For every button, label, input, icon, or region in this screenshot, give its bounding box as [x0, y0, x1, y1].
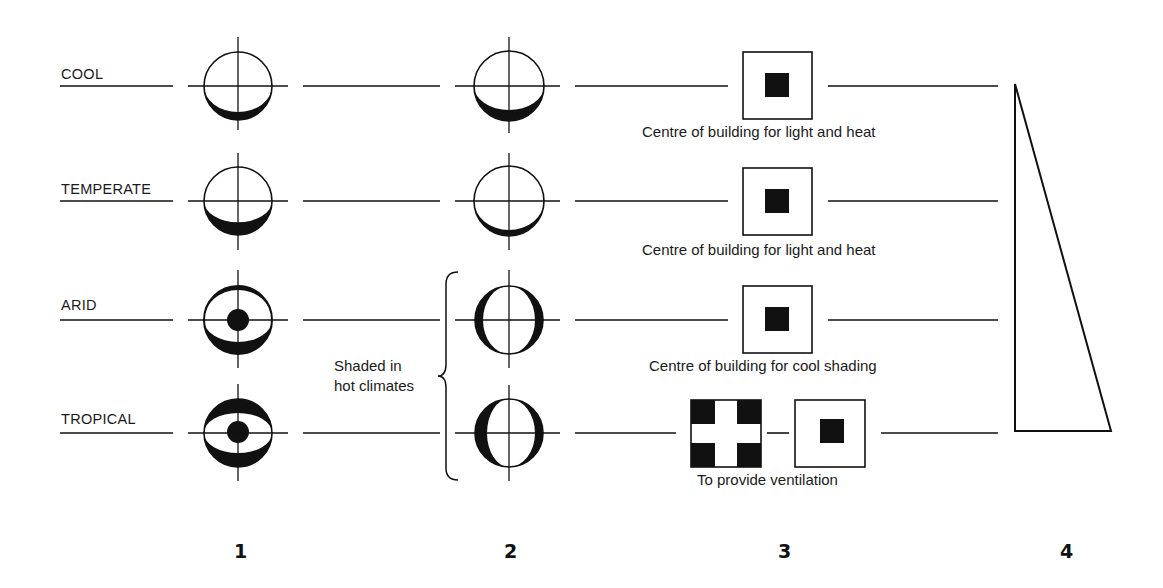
building-plan-centre-core-icon [743, 52, 812, 119]
brace-icon [438, 272, 458, 480]
row-label-tropical: TROPICAL [61, 411, 136, 427]
brace-note-line1: Shaded in [334, 356, 414, 376]
caption-arid: Centre of building for cool shading [649, 357, 877, 374]
orientation-circle-bottom-crescent-thin-icon [455, 153, 560, 250]
row-label-arid: ARID [61, 297, 97, 313]
sun-path-circle-dot-thick-crescents-icon [188, 384, 288, 481]
tapering-triangle-icon [1015, 84, 1111, 431]
brace-note-line2: hot climates [334, 376, 414, 396]
building-plan-cross-icon [691, 400, 761, 467]
caption-temperate: Centre of building for light and heat [642, 241, 876, 258]
row-label-temperate: TEMPERATE [61, 181, 151, 197]
climate-diagram [0, 0, 1163, 588]
building-plan-centre-core-icon [743, 168, 812, 235]
orientation-circle-bottom-crescent-icon [455, 37, 560, 133]
brace-note: Shaded in hot climates [334, 356, 414, 396]
column-number-3: 3 [778, 540, 791, 562]
sun-path-circle-dot-crescents-icon [188, 270, 288, 368]
column-number-1: 1 [234, 540, 247, 562]
row-label-cool: COOL [61, 66, 103, 82]
column-number-4: 4 [1060, 540, 1073, 562]
caption-tropical: To provide ventilation [697, 471, 838, 488]
caption-cool: Centre of building for light and heat [642, 123, 876, 140]
orientation-circle-side-shading-thick-icon [455, 385, 560, 481]
building-plan-centre-core-icon [795, 400, 865, 467]
building-plan-centre-core-icon [743, 286, 812, 353]
column-number-2: 2 [504, 540, 517, 562]
orientation-circle-side-shading-icon [455, 270, 560, 368]
sun-path-circle-thick-crescent-icon [188, 153, 288, 250]
sun-path-circle-bottom-crescent-icon [188, 37, 288, 130]
